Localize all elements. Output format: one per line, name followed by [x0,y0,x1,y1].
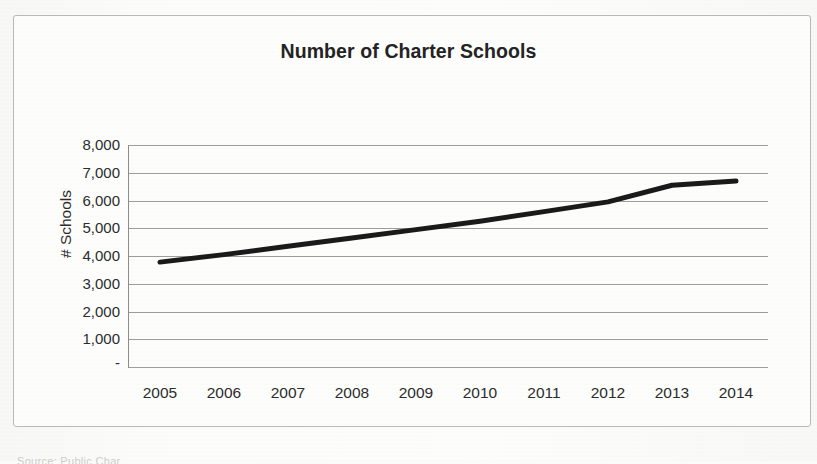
series-line-layer [128,145,768,367]
y-axis-tick-label: 7,000 [54,165,120,180]
x-axis-tick-label: 2009 [381,385,451,401]
y-axis-tick-label: 3,000 [54,276,120,291]
y-axis-tick-label: 8,000 [54,137,120,152]
x-axis-tick-label: 2010 [445,385,515,401]
x-axis-tick-label: 2005 [125,385,195,401]
chart-title: Number of Charter Schools [0,40,817,63]
source-note: Source: Public Char [17,455,121,464]
x-axis-tick-label: 2007 [253,385,323,401]
x-axis-tick-labels: 2005200620072008200920102011201220132014 [128,385,768,411]
x-axis-tick-label: 2013 [637,385,707,401]
y-axis-tick-label: 2,000 [54,304,120,319]
y-axis-tick-label: - [54,355,120,370]
x-axis-tick-label: 2014 [701,385,771,401]
gridline [128,367,768,368]
x-axis-tick-label: 2011 [509,385,579,401]
y-axis-tick-labels: -1,0002,0003,0004,0005,0006,0007,0008,00… [52,0,120,461]
x-axis-tick-label: 2012 [573,385,643,401]
x-axis-tick-label: 2008 [317,385,387,401]
series-line-charter-schools [160,181,736,262]
y-axis-tick-label: 6,000 [54,193,120,208]
x-axis-tick-label: 2006 [189,385,259,401]
y-axis-tick-label: 5,000 [54,220,120,235]
y-axis-tick-label: 4,000 [54,248,120,263]
y-axis-tick-label: 1,000 [54,331,120,346]
